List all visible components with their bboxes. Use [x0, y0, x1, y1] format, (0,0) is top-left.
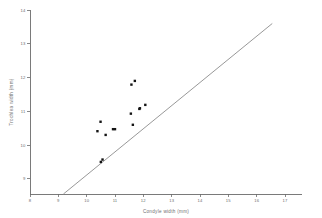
data-point: [144, 104, 146, 106]
data-point: [104, 134, 106, 136]
y-axis-tick-labels: 91011121314: [20, 8, 25, 182]
x-tick-label-8: 8: [29, 198, 32, 203]
data-point: [100, 161, 102, 163]
data-point: [130, 83, 132, 85]
y-tick-label-11: 11: [21, 109, 26, 114]
y-tick-label-10: 10: [20, 143, 25, 148]
y-tick-label-13: 13: [20, 41, 25, 46]
identity-reference-line: [63, 24, 272, 194]
y-tick-label-14: 14: [20, 8, 25, 13]
data-point: [130, 112, 132, 114]
x-axis-tick-labels: 891011121314151617: [29, 198, 288, 203]
x-tick-label-17: 17: [283, 198, 288, 203]
x-tick-label-12: 12: [141, 198, 146, 203]
y-tick-label-12: 12: [20, 75, 25, 80]
x-axis-title: Condyle width (mm): [143, 209, 189, 214]
x-tick-label-9: 9: [57, 198, 60, 203]
scatter-plot-figure: 891011121314151617 91011121314 Condyle w…: [0, 0, 322, 218]
axes: [30, 10, 302, 194]
x-tick-label-15: 15: [226, 198, 231, 203]
data-point: [99, 121, 101, 123]
data-point: [96, 130, 98, 132]
x-tick-label-13: 13: [169, 198, 174, 203]
x-tick-label-10: 10: [84, 198, 89, 203]
x-tick-label-14: 14: [198, 198, 203, 203]
x-tick-label-11: 11: [113, 198, 118, 203]
data-point: [134, 80, 136, 82]
data-point: [114, 128, 116, 130]
data-point: [132, 124, 134, 126]
x-tick-label-16: 16: [254, 198, 259, 203]
y-axis-title: Trochlea width (mm): [9, 78, 14, 126]
scatter-points: [96, 80, 146, 163]
y-tick-label-9: 9: [23, 176, 26, 181]
chart-canvas: 891011121314151617 91011121314 Condyle w…: [0, 0, 322, 218]
data-point: [139, 107, 141, 109]
data-point: [101, 158, 103, 160]
